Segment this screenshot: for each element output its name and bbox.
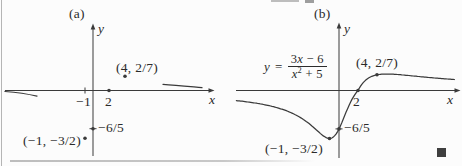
panel-b-tick-2-label: 2 <box>353 95 360 109</box>
panel-b-point-4-27-label: (4, 2/7) <box>356 56 398 70</box>
panel-a-right-fragment <box>163 84 202 87</box>
panel-a-point-4-27-label: (4, 2/7) <box>116 61 158 75</box>
panel-a-y-intercept-label: −6/5 <box>98 121 124 135</box>
panel-a-left-fragment <box>5 92 37 97</box>
panel-b-y-axis-arrow-icon <box>337 23 342 29</box>
panel-a-min-point-label: (−1, −3/2) <box>23 134 81 148</box>
equation-lhs: y <box>264 59 270 75</box>
end-of-example-marker <box>437 148 446 157</box>
panel-a-tick-neg1-label: −1 <box>76 95 91 109</box>
data-point <box>375 73 379 77</box>
data-point <box>337 127 341 131</box>
scan-artifact-top-right <box>305 0 314 3</box>
panel-a-y-axis-arrow-icon <box>91 24 96 30</box>
page-edge-line <box>1 0 2 166</box>
data-point <box>83 136 87 140</box>
panel-b-label: (b) <box>314 7 331 21</box>
panel-b-y-axis-label: y <box>344 22 350 36</box>
panel-a-x-axis-label: x <box>209 93 215 107</box>
equation-denominator: x2 + 5 <box>289 67 326 81</box>
data-point <box>356 89 360 93</box>
panel-a-label: (a) <box>69 7 85 21</box>
panel-a-y-axis-label: y <box>98 22 104 36</box>
data-point <box>107 89 111 93</box>
textbook-figure: (a) y x (4, 2/7) −1 2 −6/5 (−1, −3/2) (b… <box>0 0 462 166</box>
panel-a-tick-2-label: 2 <box>105 95 112 109</box>
data-point <box>91 127 95 131</box>
panel-b-axes <box>236 23 461 159</box>
panel-b-min-point-label: (−1, −3/2) <box>265 142 323 156</box>
panel-b-y-intercept-label: −6/5 <box>344 121 370 135</box>
page-rule-bottom <box>10 160 315 162</box>
scan-artifact-top-left <box>271 0 299 2</box>
equation-fraction: 3x − 6 x2 + 5 <box>288 52 327 81</box>
panel-b-x-axis-arrow-icon <box>455 88 461 93</box>
panel-b-equation: y = 3x − 6 x2 + 5 <box>264 52 327 81</box>
equation-equals: = <box>275 59 283 75</box>
panel-b-x-axis-label: x <box>447 93 453 107</box>
equation-numerator: 3x − 6 <box>288 52 327 66</box>
data-point <box>328 137 332 141</box>
